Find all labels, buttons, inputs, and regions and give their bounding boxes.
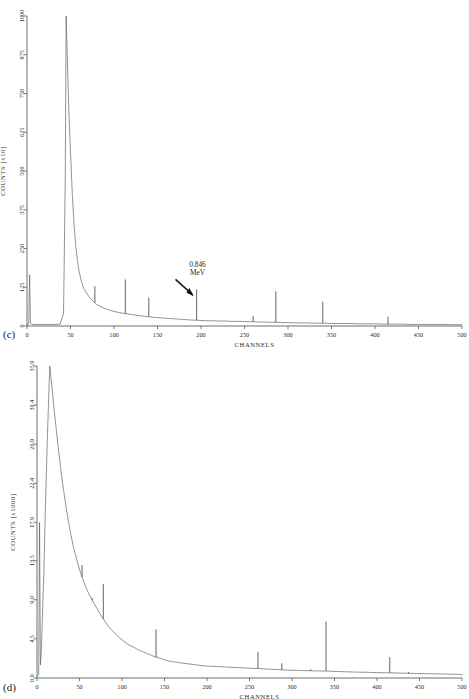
peak-annotation: 0.846MeV [176,260,207,296]
x-tick-label: 450 [414,331,423,338]
y-tick-label: 17.9 [28,517,35,528]
panel-d-letter: (d) [3,681,16,693]
y-axis-title: COUNTS [x10] [0,146,7,196]
y-tick-label: 500 [18,166,25,175]
panel-c: 0501001502002503003504004505000125250375… [0,0,469,350]
panel-d: 0501001502002503003504004505000.04.59.01… [0,350,469,699]
y-tick-label: 0.0 [28,674,35,682]
y-tick-label: 125 [18,283,25,292]
x-tick-label: 100 [109,331,118,338]
x-tick-label: 500 [457,331,466,338]
y-tick-label: 22.4 [28,478,35,489]
x-tick-label: 50 [76,683,82,690]
y-tick-label: 35.9 [28,361,35,372]
y-tick-label: 9.0 [28,596,35,604]
y-tick-label: 750 [18,89,25,98]
x-axis-title: CHANNELS [235,341,275,348]
x-tick-label: 400 [372,683,381,690]
y-tick-label: 13.5 [28,555,35,566]
y-tick-label: 26.9 [28,439,35,450]
x-tick-label: 500 [457,683,466,690]
x-tick-label: 250 [240,331,249,338]
x-tick-label: 150 [153,331,162,338]
y-tick-label: 4.5 [28,635,35,643]
x-tick-label: 350 [330,683,339,690]
panel-c-letter: (c) [3,328,15,340]
x-tick-label: 50 [67,331,73,338]
chart-c-plot: 0501001502002503003504004505000125250375… [0,0,469,350]
x-tick-label: 150 [160,683,169,690]
y-tick-label: 375 [18,205,25,214]
spectrum-curve [37,366,462,676]
x-tick-label: 200 [202,683,211,690]
x-tick-label: 0 [25,331,28,338]
chart-d-plot: 0501001502002503003504004505000.04.59.01… [0,350,469,699]
x-tick-label: 350 [327,331,336,338]
y-axis-title: COUNTS [x1000] [9,493,17,550]
y-tick-label: 625 [18,128,25,137]
x-tick-label: 300 [287,683,296,690]
y-tick-label: 0 [18,324,25,327]
y-tick-label: 1000 [18,10,25,22]
spectrum-curve [27,16,462,325]
spectra-figure: 0501001502002503003504004505000125250375… [0,0,469,699]
x-axis-title: CHANNELS [240,693,280,699]
x-tick-label: 300 [283,331,292,338]
x-tick-label: 200 [196,331,205,338]
x-tick-label: 450 [415,683,424,690]
y-tick-label: 875 [18,50,25,59]
x-tick-label: 100 [117,683,126,690]
x-tick-label: 250 [245,683,254,690]
x-tick-label: 400 [370,331,379,338]
annotation-line-2: MeV [190,268,206,277]
y-tick-label: 250 [18,244,25,253]
y-tick-label: 31.4 [28,400,35,411]
x-tick-label: 0 [35,683,38,690]
